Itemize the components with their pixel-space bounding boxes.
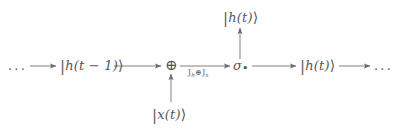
ket-left-bar: | xyxy=(60,57,65,75)
ket-body-h-t-output: h(t) xyxy=(228,10,253,25)
operator-j-x-symbol: J xyxy=(202,68,205,77)
sigma-bullet-subscript: • xyxy=(242,62,249,75)
ket-left-bar: | xyxy=(300,57,305,75)
left-ellipsis: ... xyxy=(8,59,27,72)
ket-left-bar: | xyxy=(152,106,157,124)
ket-h-t-output: |h(t)⟩ xyxy=(223,10,258,25)
operator-j-h-subscript: h xyxy=(191,72,195,78)
operator-j-x-subscript: x xyxy=(206,72,209,78)
ket-body-h-t: h(t) xyxy=(305,58,330,73)
ket-right-angle: ⟩ xyxy=(181,106,187,122)
recurrence-diagram: ... |h(t − 1)⟩ ⊕ σ• |h(t)⟩ ... |h(t)⟩ |x… xyxy=(0,0,395,133)
right-ellipsis: ... xyxy=(374,59,393,72)
ket-h-t-right: |h(t)⟩ xyxy=(300,58,335,73)
transform-operator-label: Jh⊕Jx xyxy=(188,69,209,77)
ket-right-angle: ⟩ xyxy=(253,9,259,25)
ket-h-t-minus-1: |h(t − 1)⟩ xyxy=(60,58,124,73)
circled-plus-operator: ⊕ xyxy=(165,58,178,73)
ket-left-bar: | xyxy=(223,9,228,27)
ket-body-h-t-minus-1: h(t − 1) xyxy=(65,58,118,73)
ket-body-x-t: x(t) xyxy=(157,107,181,122)
sigma-activation: σ• xyxy=(233,59,248,72)
ket-right-angle: ⟩ xyxy=(330,57,336,73)
ket-right-angle: ⟩ xyxy=(118,57,124,73)
ket-x-t-input: |x(t)⟩ xyxy=(152,107,186,122)
sigma-symbol: σ xyxy=(233,58,242,73)
